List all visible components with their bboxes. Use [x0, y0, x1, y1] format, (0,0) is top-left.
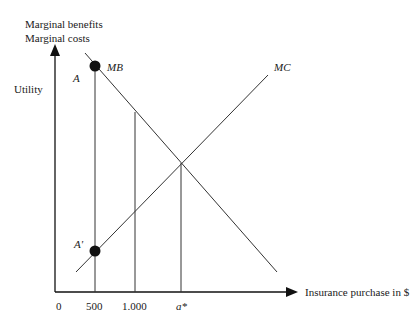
- point-a-prime-label: A': [74, 238, 83, 250]
- utility-label: Utility: [14, 83, 43, 95]
- y-axis-arrow-icon: [50, 44, 60, 56]
- x-tick-500: 500: [86, 300, 103, 312]
- mc-label: MC: [274, 61, 291, 73]
- x-tick-0: 0: [56, 300, 62, 312]
- x-tick-a-star: a*: [176, 300, 187, 312]
- mb-label: MB: [107, 61, 123, 73]
- point-a-prime-dot-icon: [90, 246, 101, 257]
- y-axis-label-line1: Marginal benefits: [25, 18, 103, 30]
- x-axis-label: Insurance purchase in $: [305, 286, 409, 298]
- point-a-dot-icon: [90, 61, 101, 72]
- mc-curve: [76, 75, 268, 272]
- diagram-canvas: [0, 0, 419, 313]
- point-a-label: A: [73, 72, 80, 84]
- x-axis-arrow-icon: [286, 287, 298, 297]
- y-axis-label-line2: Marginal costs: [25, 32, 90, 44]
- x-tick-1000: 1.000: [122, 300, 147, 312]
